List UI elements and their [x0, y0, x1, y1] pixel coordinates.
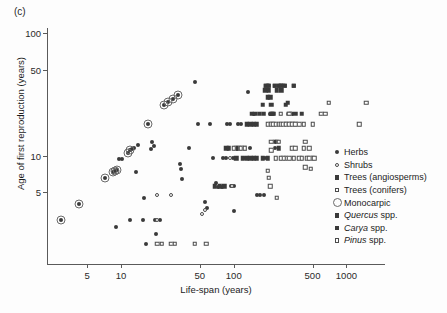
- data-point: [265, 169, 270, 174]
- x-tick-50: [200, 264, 201, 268]
- legend-label: Pinus spp.: [344, 235, 386, 245]
- y-tick-label-5: 5: [36, 187, 41, 198]
- y-axis-title: Age of first reproduction (years): [15, 24, 26, 224]
- x-tick-5: [87, 264, 88, 268]
- data-point: [262, 193, 266, 197]
- x-tick-label-10: 10: [116, 270, 127, 281]
- data-point: [282, 84, 287, 89]
- data-point: [208, 122, 212, 126]
- legend-item: Pinus spp.: [330, 234, 442, 247]
- legend-label: Trees (conifers): [344, 185, 407, 195]
- data-point: [179, 167, 183, 171]
- data-point: [180, 177, 184, 181]
- data-point: [204, 242, 209, 247]
- y-tick-label-10: 10: [30, 150, 41, 161]
- y-tick-5: [43, 192, 47, 193]
- data-point: [136, 143, 140, 147]
- y-tick-label-100: 100: [25, 28, 41, 39]
- data-point: [74, 200, 83, 209]
- data-point: [260, 102, 265, 107]
- data-point: [274, 196, 279, 201]
- data-point: [173, 242, 178, 247]
- data-point: [293, 122, 298, 127]
- data-point: [278, 156, 283, 161]
- y-tick-label-50: 50: [30, 64, 41, 75]
- x-tick-label-50: 50: [195, 270, 206, 281]
- legend-label: Trees (angiosperms): [344, 172, 427, 182]
- data-point: [248, 146, 252, 150]
- legend-item: Shrubs: [330, 159, 442, 172]
- data-point: [128, 218, 132, 222]
- data-point: [269, 148, 274, 153]
- data-point: [240, 156, 245, 161]
- y-tick-10: [43, 156, 47, 157]
- legend-label: Carya spp.: [344, 223, 388, 233]
- legend-marker-icon: [330, 175, 344, 180]
- legend-marker-icon: [330, 238, 344, 243]
- y-tick-100: [43, 33, 47, 34]
- data-point: [302, 122, 307, 127]
- data-point: [226, 146, 231, 151]
- data-point: [291, 156, 296, 161]
- data-point: [269, 102, 274, 107]
- legend-item: Quercus spp.: [330, 209, 442, 222]
- data-point: [203, 200, 207, 204]
- data-point: [273, 156, 278, 161]
- data-point: [357, 122, 362, 127]
- data-point: [192, 242, 197, 247]
- data-point: [287, 111, 292, 116]
- data-point: [101, 173, 110, 182]
- data-point: [232, 209, 236, 213]
- legend-marker-shape: [335, 188, 340, 193]
- data-point: [228, 122, 232, 126]
- x-tick-500: [313, 264, 314, 268]
- data-point: [262, 111, 267, 116]
- data-point: [178, 162, 182, 166]
- data-point: [293, 146, 298, 151]
- legend-marker-shape: [335, 226, 340, 231]
- legend-marker-icon: [330, 150, 344, 154]
- legend-marker-icon: [330, 213, 344, 218]
- data-point: [234, 156, 239, 161]
- data-point: [232, 146, 237, 151]
- data-point: [291, 84, 296, 89]
- data-point: [323, 111, 328, 116]
- data-point: [302, 146, 307, 151]
- data-point: [113, 166, 122, 175]
- data-point: [327, 100, 332, 105]
- data-point: [155, 218, 159, 222]
- legend-marker-icon: [330, 226, 344, 231]
- data-point: [242, 146, 247, 151]
- data-point: [141, 218, 145, 222]
- data-point: [222, 184, 227, 189]
- x-axis-line: [47, 264, 385, 265]
- legend-label: Quercus spp.: [344, 210, 398, 220]
- x-axis-title: Life-span (years): [47, 284, 385, 295]
- data-point: [154, 232, 158, 236]
- legend-item: Trees (conifers): [330, 184, 442, 197]
- panel-label: (c): [14, 6, 26, 17]
- legend-label: Monocarpic: [344, 198, 391, 208]
- legend-item: Trees (angiosperms): [330, 171, 442, 184]
- data-point: [155, 193, 159, 197]
- data-point: [265, 156, 270, 161]
- data-point: [228, 156, 232, 160]
- data-point: [279, 88, 284, 93]
- legend-label: Shrubs: [344, 160, 373, 170]
- data-point: [297, 122, 302, 127]
- data-point: [269, 139, 274, 144]
- data-point: [246, 90, 250, 94]
- legend-marker-shape: [335, 175, 340, 180]
- data-point: [278, 111, 283, 116]
- data-point: [142, 196, 146, 200]
- data-point: [187, 146, 191, 150]
- data-point: [299, 156, 304, 161]
- data-point: [213, 184, 218, 189]
- data-point: [152, 144, 156, 148]
- data-point: [308, 166, 313, 171]
- figure-panel-c: (c) 51050100 510501005001000 Life-span (…: [0, 0, 447, 313]
- data-point: [196, 122, 200, 126]
- data-point: [310, 122, 315, 127]
- legend-marker-icon: [330, 188, 344, 193]
- legend-marker-icon: [330, 163, 344, 167]
